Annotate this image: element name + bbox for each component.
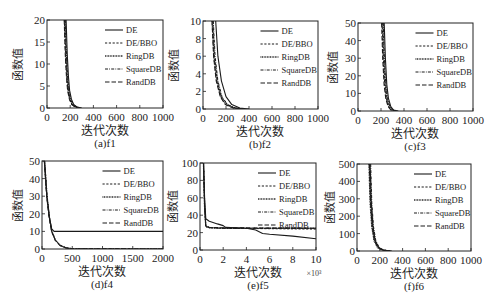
x-tick-label: 6 bbox=[267, 253, 273, 265]
x-tick-label: 200 bbox=[218, 112, 235, 124]
y-axis-label: 函数值 bbox=[327, 51, 339, 84]
legend: DEDE/BBORingDBSquareDBRandDB bbox=[414, 169, 471, 231]
x-axis-label: 迭代次数 bbox=[391, 126, 439, 141]
series-group bbox=[212, 21, 249, 109]
x-tick-label: 800 bbox=[287, 112, 304, 124]
x-tick-label: 600 bbox=[264, 112, 281, 124]
legend-label: RingDB bbox=[124, 192, 153, 202]
legend-label: DE bbox=[126, 25, 137, 35]
subplot-e: 0246810020406080100函数值迭代次数(e)f5×10³DEDE/… bbox=[167, 157, 322, 292]
legend-label: DE bbox=[282, 26, 293, 36]
y-tick-label: 50 bbox=[29, 155, 41, 167]
figure-canvas: 0200400600800100005101520函数值迭代次数(a)f1DED… bbox=[0, 0, 502, 304]
y-tick-label: 10 bbox=[345, 87, 357, 99]
y-tick-label: 0 bbox=[193, 244, 199, 256]
x-tick-label: 200 bbox=[372, 254, 389, 266]
y-tick-label: 200 bbox=[339, 210, 356, 222]
x-tick-label: 800 bbox=[440, 254, 457, 266]
x-tick-label: 1000 bbox=[92, 252, 115, 264]
legend-label: RingDB bbox=[282, 52, 311, 62]
x-tick-label: 2000 bbox=[152, 252, 175, 264]
legend-label: RingDB bbox=[279, 194, 308, 204]
legend-label: SquareDB bbox=[282, 65, 318, 75]
y-tick-label: 0 bbox=[196, 103, 202, 115]
subplot-caption: (c)f3 bbox=[404, 140, 426, 153]
x-tick-label: 400 bbox=[85, 111, 102, 123]
legend-label: RingDB bbox=[437, 54, 466, 64]
y-tick-label: 4 bbox=[196, 68, 202, 80]
line-squaredb bbox=[213, 21, 245, 109]
subplot-caption: (d)f4 bbox=[91, 278, 113, 291]
legend: DEDE/BBORingDBSquareDBRandDB bbox=[103, 166, 160, 228]
legend: DEDE/BBORingDBSquareDBRandDB bbox=[416, 28, 473, 90]
y-tick-label: 10 bbox=[29, 225, 41, 237]
x-tick-label: 800 bbox=[132, 111, 149, 123]
subplot-d: 050010001500200001020304050函数值迭代次数(d)f4D… bbox=[12, 155, 175, 291]
legend: DEDE/BBORingDBSquareDBRandDB bbox=[258, 168, 315, 230]
y-tick-label: 8 bbox=[196, 33, 202, 45]
x-tick-label: 4 bbox=[244, 253, 250, 265]
x-tick-label: 1000 bbox=[460, 254, 483, 266]
y-tick-label: 60 bbox=[187, 192, 199, 204]
x-tick-label: 0 bbox=[44, 111, 50, 123]
y-tick-label: 80 bbox=[187, 174, 199, 186]
x-tick-label: 400 bbox=[396, 114, 413, 126]
x-tick-label: 600 bbox=[419, 114, 436, 126]
y-tick-label: 400 bbox=[339, 175, 356, 187]
x-axis-label: 迭代次数 bbox=[81, 123, 129, 138]
x-tick-label: 200 bbox=[62, 111, 79, 123]
subplot-caption: (e)f5 bbox=[247, 279, 269, 292]
legend-label: SquareDB bbox=[435, 208, 471, 218]
legend-label: RandDB bbox=[279, 220, 309, 230]
subplot-a: 0200400600800100005101520函数值迭代次数(a)f1DED… bbox=[12, 14, 175, 150]
legend-label: RandDB bbox=[437, 80, 467, 90]
x-tick-label: 400 bbox=[241, 112, 258, 124]
legend-label: RandDB bbox=[126, 77, 156, 87]
legend-label: DE/BBO bbox=[124, 179, 155, 189]
subplot-caption: (f)f6 bbox=[404, 280, 425, 293]
x-tick-label: 800 bbox=[442, 114, 459, 126]
y-tick-label: 40 bbox=[345, 35, 357, 47]
x-tick-label: 8 bbox=[290, 253, 296, 265]
y-axis-label: 函数值 bbox=[12, 48, 24, 81]
y-tick-label: 20 bbox=[29, 208, 41, 220]
line-de bbox=[384, 23, 398, 111]
x-axis-label: 迭代次数 bbox=[78, 264, 126, 279]
y-axis-label: 函数值 bbox=[324, 191, 336, 224]
y-tick-label: 40 bbox=[187, 209, 199, 221]
y-tick-label: 0 bbox=[350, 245, 356, 257]
x-tick-label: 1000 bbox=[462, 114, 485, 126]
y-tick-label: 20 bbox=[187, 227, 199, 239]
x-tick-label: 1500 bbox=[122, 252, 145, 264]
subplot-b: 020040060080010000246810函数值迭代次数(b)f2DEDE… bbox=[168, 15, 330, 151]
x-axis-label: 迭代次数 bbox=[390, 266, 438, 281]
x-tick-label: 0 bbox=[355, 114, 361, 126]
legend: DEDE/BBORingDBSquareDBRandDB bbox=[105, 25, 162, 87]
y-tick-label: 30 bbox=[29, 190, 41, 202]
series-group bbox=[369, 164, 392, 251]
legend-label: DE/BBO bbox=[437, 41, 468, 51]
y-tick-label: 40 bbox=[29, 173, 41, 185]
x-tick-label: 0 bbox=[39, 252, 45, 264]
legend-label: DE/BBO bbox=[435, 182, 466, 192]
x-multiplier-label: ×10³ bbox=[307, 269, 323, 278]
x-tick-label: 0 bbox=[200, 112, 206, 124]
x-tick-label: 600 bbox=[108, 111, 125, 123]
y-axis-label: 函数值 bbox=[168, 49, 180, 82]
x-axis-label: 迭代次数 bbox=[236, 124, 284, 139]
y-tick-label: 30 bbox=[345, 52, 357, 64]
legend-label: DE/BBO bbox=[126, 38, 157, 48]
y-tick-label: 15 bbox=[34, 36, 46, 48]
x-tick-label: 600 bbox=[417, 254, 434, 266]
y-axis-label: 函数值 bbox=[167, 190, 179, 223]
legend-label: SquareDB bbox=[437, 67, 473, 77]
legend-label: DE bbox=[437, 28, 448, 38]
legend-label: SquareDB bbox=[279, 207, 315, 217]
subplot-caption: (a)f1 bbox=[94, 137, 115, 150]
legend-label: SquareDB bbox=[126, 64, 162, 74]
y-tick-label: 20 bbox=[34, 14, 46, 26]
legend: DEDE/BBORingDBSquareDBRandDB bbox=[261, 26, 318, 88]
legend-label: DE bbox=[435, 169, 446, 179]
y-tick-label: 0 bbox=[351, 105, 357, 117]
x-tick-label: 500 bbox=[64, 252, 81, 264]
